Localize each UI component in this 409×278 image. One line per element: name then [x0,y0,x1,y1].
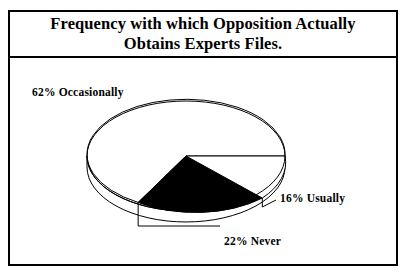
chart-page: Frequency with which Opposition Actually… [0,0,409,278]
pie-label-occasionally: 62% Occasionally [32,86,124,98]
pie-label-usually: 16% Usually [280,192,345,204]
chart-title-band: Frequency with which Opposition Actually… [10,12,396,58]
page-title: Frequency with which Opposition Actually… [42,14,363,54]
pie-label-never: 22% Never [224,235,281,247]
pie-chart-plot-area: 62% Occasionally 16% Usually 22% Never [10,58,396,264]
chart-frame: Frequency with which Opposition Actually… [8,10,398,266]
chart-title-line-1: Frequency with which Opposition Actually [50,14,355,33]
chart-title-line-2: Obtains Experts Files. [50,34,355,54]
